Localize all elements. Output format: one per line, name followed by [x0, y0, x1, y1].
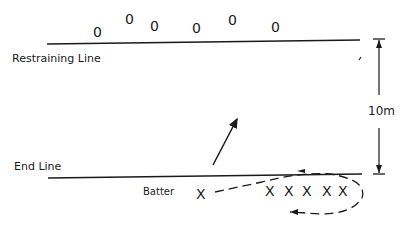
batter-label: Batter	[143, 186, 174, 197]
waiting-batter-marker: X	[284, 184, 294, 198]
distance-label: 10m	[368, 102, 395, 120]
waiting-batter-marker: X	[302, 184, 312, 198]
waiting-batter-marker: X	[322, 184, 332, 198]
fielder-marker: 0	[125, 12, 134, 26]
end-line-label: End Line	[14, 160, 61, 173]
fielder-marker: 0	[192, 21, 201, 35]
waiting-batter-marker: X	[265, 184, 275, 198]
restraining-line	[47, 40, 360, 44]
restraining-line-label: Restraining Line	[12, 52, 101, 65]
end-line	[48, 174, 362, 178]
fielder-marker: 0	[150, 19, 159, 33]
ball-direction-arrow-icon	[213, 119, 237, 165]
fielder-marker: 0	[93, 25, 102, 39]
batter-marker: X	[196, 187, 206, 201]
fielder-marker: 0	[271, 20, 280, 34]
fielder-marker: 0	[228, 13, 237, 27]
waiting-batter-marker: X	[338, 184, 348, 198]
